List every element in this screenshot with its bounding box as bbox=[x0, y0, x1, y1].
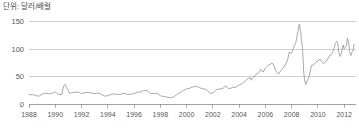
x-axis-line bbox=[29, 104, 356, 108]
chart-plot-area: 050100150 198819901992199419961998200020… bbox=[0, 0, 359, 130]
x-tick-label: 1994 bbox=[100, 111, 116, 118]
x-tick-label: 2008 bbox=[284, 111, 300, 118]
y-tick-label: 0 bbox=[20, 100, 24, 109]
x-tick-label: 1992 bbox=[74, 111, 90, 118]
x-tick-label: 1998 bbox=[153, 111, 169, 118]
x-tick-label: 2000 bbox=[179, 111, 195, 118]
gridlines bbox=[29, 22, 356, 77]
x-tick-label: 2002 bbox=[205, 111, 221, 118]
x-tick-label: 2004 bbox=[231, 111, 247, 118]
x-tick-label: 2012 bbox=[336, 111, 352, 118]
y-axis-tick-labels: 050100150 bbox=[11, 17, 24, 109]
y-tick-label: 100 bbox=[11, 45, 24, 54]
series-line bbox=[29, 24, 354, 98]
y-tick-label: 150 bbox=[11, 17, 24, 26]
x-axis-tick-labels: 1988199019921994199619982000200220042006… bbox=[21, 111, 352, 118]
x-tick-label: 1988 bbox=[21, 111, 37, 118]
oil-price-chart: 단위: 달러/배럴 050100150 19881990199219941996… bbox=[0, 0, 359, 130]
x-tick-label: 1996 bbox=[126, 111, 142, 118]
y-tick-label: 50 bbox=[16, 72, 24, 81]
x-tick-label: 1990 bbox=[47, 111, 63, 118]
x-tick-label: 2010 bbox=[310, 111, 326, 118]
x-tick-label: 2006 bbox=[258, 111, 274, 118]
data-series-line bbox=[29, 24, 354, 98]
